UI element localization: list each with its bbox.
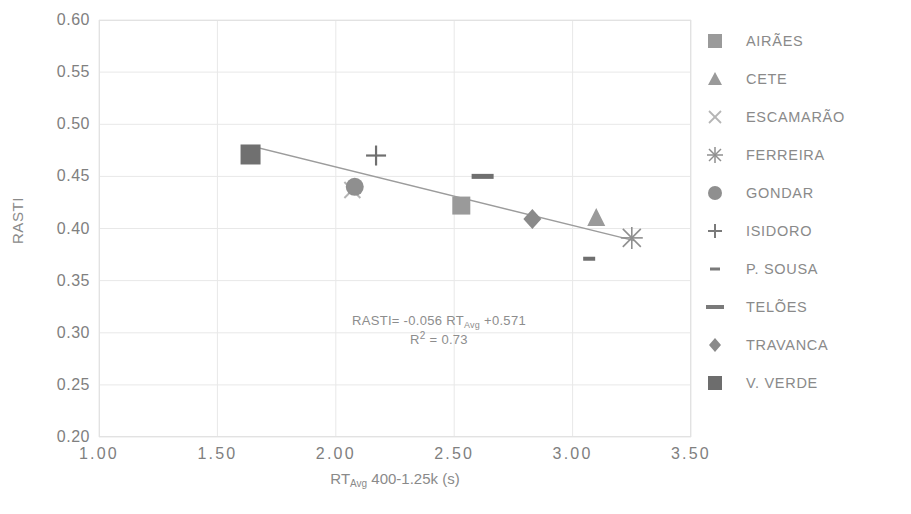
- legend-marker-slot: [700, 182, 730, 204]
- legend-marker-slot: [700, 258, 730, 280]
- marker-dash-long: [472, 174, 494, 179]
- plot-area: RASTI= -0.056 RTAvg +0.571 R2 = 0.73: [99, 20, 691, 437]
- data-point-gondar: [346, 178, 364, 196]
- r-squared-prefix: R: [410, 332, 420, 347]
- glyph-asterisk: [707, 147, 723, 163]
- legend-item-label: TRAVANCA: [730, 337, 828, 353]
- legend-marker-slot: [700, 220, 730, 242]
- glyph-circle: [708, 186, 722, 200]
- data-point-p-sousa: [583, 257, 595, 261]
- r-squared-superscript: 2: [420, 330, 426, 341]
- trendline: [251, 146, 635, 241]
- glyph-dash-short: [710, 268, 720, 271]
- chart-legend: AIRÃESCETEESCAMARÃOFERREIRAGONDARISIDORO…: [700, 22, 911, 402]
- legend-marker-plus: [703, 220, 727, 242]
- glyph-x: [709, 111, 721, 123]
- regression-equation: RASTI= -0.056 RTAvg +0.571: [299, 312, 579, 331]
- legend-marker-slot: [700, 372, 730, 394]
- x-axis-tick-label: 2.50: [414, 446, 494, 462]
- data-point-v-verde: [241, 144, 261, 164]
- data-point-travanca: [523, 209, 541, 229]
- legend-item-label: AIRÃES: [730, 33, 803, 49]
- x-axis-title-subscript: Avg: [350, 478, 367, 489]
- legend-marker-slot: [700, 296, 730, 318]
- legend-item-label: FERREIRA: [730, 147, 825, 163]
- marker-circle: [346, 178, 364, 196]
- legend-marker-diamond: [703, 334, 727, 356]
- legend-marker-slot: [700, 30, 730, 52]
- glyph-square-filled: [708, 376, 722, 390]
- legend-marker-square: [703, 30, 727, 52]
- legend-marker-slot: [700, 106, 730, 128]
- r-squared-suffix: = 0.73: [426, 332, 468, 347]
- marker-diamond: [523, 209, 541, 229]
- regression-equation-suffix: +0.571: [480, 313, 526, 328]
- glyph-square: [708, 34, 722, 48]
- legend-item[interactable]: AIRÃES: [700, 22, 911, 60]
- glyph-dash-long: [706, 305, 724, 309]
- legend-marker-cross-x: [703, 106, 727, 128]
- glyph-diamond: [709, 338, 721, 352]
- legend-marker-square-filled: [703, 372, 727, 394]
- glyph-plus: [708, 224, 722, 238]
- plot-svg: [99, 20, 691, 437]
- legend-item[interactable]: CETE: [700, 60, 911, 98]
- regression-equation-subscript: Avg: [464, 320, 480, 330]
- data-point-ferreira: [621, 227, 643, 249]
- data-point-cete: [587, 208, 605, 226]
- marker-triangle: [587, 208, 605, 226]
- legend-item[interactable]: P. SOUSA: [700, 250, 911, 288]
- legend-item-label: P. SOUSA: [730, 261, 818, 277]
- legend-item-label: GONDAR: [730, 185, 814, 201]
- rasti-scatter-chart: RASTI 0.600.550.500.450.400.350.300.250.…: [0, 0, 911, 514]
- r-squared-value: R2 = 0.73: [299, 331, 579, 350]
- x-axis-title: RTAvg 400-1.25k (s): [99, 470, 691, 487]
- x-axis-tick-label: 1.50: [177, 446, 257, 462]
- data-point-isidoro: [366, 146, 386, 166]
- marker-dash-short: [583, 257, 595, 261]
- x-axis-title-suffix: 400-1.25k (s): [367, 470, 460, 487]
- regression-annotation: RASTI= -0.056 RTAvg +0.571 R2 = 0.73: [299, 312, 579, 350]
- legend-item[interactable]: GONDAR: [700, 174, 911, 212]
- legend-item[interactable]: TRAVANCA: [700, 326, 911, 364]
- data-point-tel-es: [472, 174, 494, 179]
- data-point-air-es: [452, 197, 470, 215]
- legend-marker-slot: [700, 334, 730, 356]
- legend-marker-triangle: [703, 68, 727, 90]
- legend-item[interactable]: ESCAMARÃO: [700, 98, 911, 136]
- legend-item[interactable]: V. VERDE: [700, 364, 911, 402]
- legend-marker-asterisk: [703, 144, 727, 166]
- legend-marker-slot: [700, 144, 730, 166]
- legend-marker-dash-short: [703, 258, 727, 280]
- x-axis-tick-label: 3.50: [651, 446, 731, 462]
- legend-marker-slot: [700, 68, 730, 90]
- legend-item[interactable]: TELÕES: [700, 288, 911, 326]
- legend-item-label: ISIDORO: [730, 223, 812, 239]
- legend-item[interactable]: ISIDORO: [700, 212, 911, 250]
- x-axis-tick-label: 2.00: [296, 446, 376, 462]
- legend-item-label: ESCAMARÃO: [730, 109, 845, 125]
- legend-item-label: V. VERDE: [730, 375, 818, 391]
- glyph-triangle: [708, 72, 722, 85]
- x-axis-tick-label: 1.00: [59, 446, 139, 462]
- legend-item-label: TELÕES: [730, 299, 807, 315]
- x-axis-title-prefix: RT: [330, 470, 350, 487]
- x-axis-tick-label: 3.00: [533, 446, 613, 462]
- marker-square-filled: [241, 144, 261, 164]
- gridlines: [99, 20, 691, 437]
- regression-equation-prefix: RASTI= -0.056 RT: [352, 313, 464, 328]
- legend-marker-circle: [703, 182, 727, 204]
- legend-item[interactable]: FERREIRA: [700, 136, 911, 174]
- legend-marker-dash-long: [703, 296, 727, 318]
- legend-item-label: CETE: [730, 71, 787, 87]
- marker-square: [452, 197, 470, 215]
